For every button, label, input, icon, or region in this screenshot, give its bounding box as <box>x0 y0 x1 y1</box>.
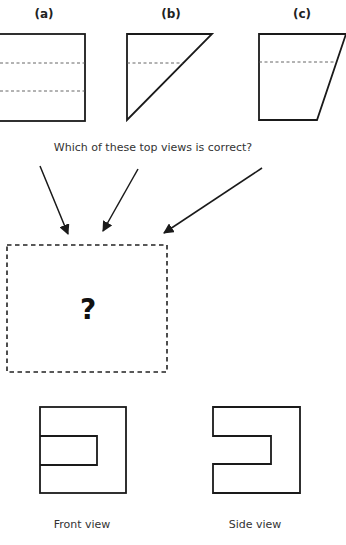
option-c-shape[interactable] <box>259 34 346 120</box>
arrow-c <box>164 168 262 233</box>
front-view <box>40 407 126 493</box>
orthographic-projection-diagram: (a) (b) (c) Which of these top views is … <box>0 0 346 545</box>
arrow-b <box>103 169 138 231</box>
option-a-outline <box>0 34 85 121</box>
option-c-outline <box>259 34 346 120</box>
side-view <box>213 407 300 493</box>
answer-box[interactable]: ? <box>7 245 167 372</box>
arrow-a <box>40 166 68 234</box>
option-b-label: (b) <box>161 7 181 21</box>
question-text: Which of these top views is correct? <box>54 141 252 154</box>
front-view-outline <box>40 407 126 493</box>
option-b-outline <box>127 34 212 120</box>
side-view-outline <box>213 407 300 493</box>
option-a-shape[interactable] <box>0 34 85 121</box>
question-mark: ? <box>80 293 96 326</box>
front-view-label: Front view <box>54 518 111 531</box>
option-c-label: (c) <box>293 7 311 21</box>
side-view-label: Side view <box>229 518 282 531</box>
option-a-label: (a) <box>34 7 53 21</box>
front-view-inner-slot <box>40 436 97 465</box>
option-b-shape[interactable] <box>127 34 212 120</box>
